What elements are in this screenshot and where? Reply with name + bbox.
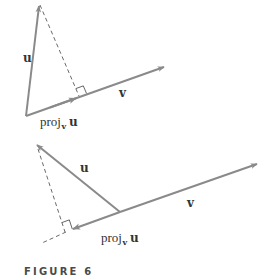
label-v: v: [186, 196, 195, 210]
label-v: v: [118, 86, 127, 100]
figure-6-diagram: u v projvu u v projvu FIGURE 6: [0, 0, 274, 280]
label-u: u: [80, 161, 89, 175]
projection-vector: [50, 98, 76, 107]
vector-u: [37, 145, 120, 212]
perpendicular-dashed-line: [40, 5, 79, 96]
perpendicular-dashed-line: [38, 149, 65, 232]
diagram-obtuse: u v projvu: [37, 145, 257, 247]
figure-caption: FIGURE 6: [24, 266, 93, 277]
diagram-acute: u v projvu: [23, 5, 164, 131]
projection-vector: [73, 212, 120, 229]
label-u: u: [23, 51, 32, 65]
v-extension-dashed-line: [42, 232, 66, 243]
label-proj: projvu: [101, 230, 139, 247]
vector-v: [26, 67, 164, 116]
right-angle-marker: [62, 220, 73, 229]
label-proj: projvu: [40, 114, 78, 131]
